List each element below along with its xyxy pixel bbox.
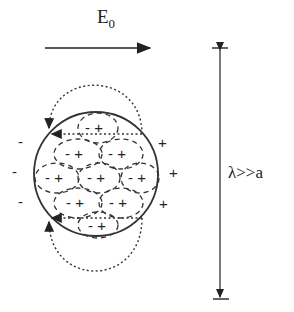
wavelength-dimension <box>212 48 229 299</box>
dipole-label: - + <box>85 120 103 135</box>
outside-charge-right-1: + <box>158 135 167 150</box>
outside-charge-right-3: + <box>159 196 168 211</box>
diagram-canvas <box>0 0 294 312</box>
wavelength-label: λ>>a <box>228 163 263 183</box>
dipole-label: - + <box>88 218 106 233</box>
dipole-label: - + <box>65 146 83 161</box>
outside-charge-left-3: - <box>18 194 23 209</box>
dipole-label: - + <box>108 146 126 161</box>
field-label: E0 <box>97 6 115 32</box>
dipole-label: - + <box>45 170 63 185</box>
dipole-label: - + <box>128 170 146 185</box>
dipole-label: - + <box>109 195 127 210</box>
outside-charge-left-2: - <box>12 164 17 179</box>
outside-charge-left-1: - <box>18 134 23 149</box>
dipole-label: - + <box>87 170 105 185</box>
dipole-label: - + <box>66 195 84 210</box>
outside-charge-right-2: + <box>169 165 178 180</box>
